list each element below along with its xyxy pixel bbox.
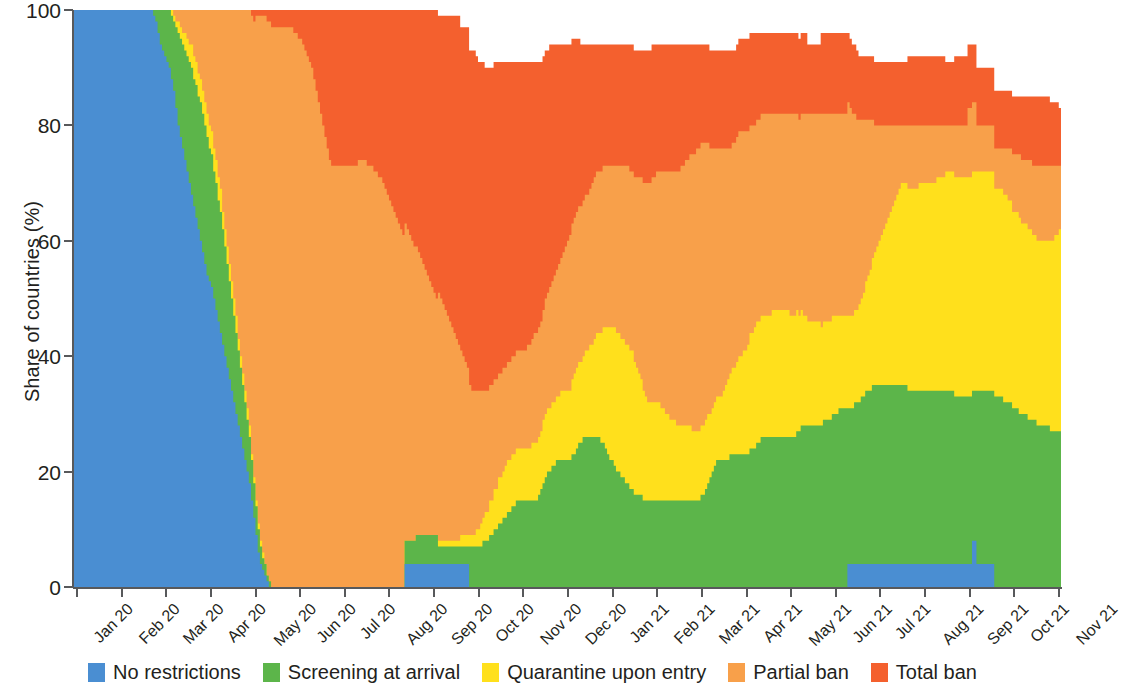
x-tick-mark (299, 588, 301, 597)
x-tick-label: Mar 20 (180, 600, 228, 648)
x-tick-mark (567, 588, 569, 597)
x-tick-label: Oct 20 (492, 600, 538, 646)
x-tick-label: Oct 21 (1027, 600, 1073, 646)
x-tick-mark (656, 588, 658, 597)
x-tick-label: Jun 20 (313, 600, 360, 647)
y-tick-label: 40 (38, 346, 61, 367)
legend-item-quarantine-upon-entry[interactable]: Quarantine upon entry (482, 662, 706, 682)
x-tick-label: Sep 20 (448, 600, 497, 649)
legend-label: Partial ban (753, 662, 849, 682)
y-tick-label: 80 (38, 115, 61, 136)
x-tick-mark (879, 588, 881, 597)
x-tick-mark (344, 588, 346, 597)
legend-swatch-icon (88, 663, 105, 682)
y-tick-label: 100 (26, 0, 61, 21)
x-tick-label: Nov 21 (1073, 600, 1121, 649)
x-tick-label: Jan 21 (626, 600, 673, 647)
x-tick-label: Apr 20 (224, 600, 270, 646)
legend-label: Quarantine upon entry (507, 662, 706, 682)
x-tick-label: Jun 21 (849, 600, 896, 647)
x-tick-label: Aug 21 (939, 600, 988, 649)
chart-legend: No restrictionsScreening at arrivalQuara… (0, 662, 1065, 682)
x-tick-mark (522, 588, 524, 597)
x-tick-mark (701, 588, 703, 597)
legend-label: Screening at arrival (288, 662, 460, 682)
x-tick-mark (121, 588, 123, 597)
x-tick-mark (433, 588, 435, 597)
x-tick-label: May 21 (806, 600, 856, 650)
x-tick-label: Jan 20 (90, 600, 137, 647)
plot-area (73, 10, 1061, 587)
x-tick-mark (924, 588, 926, 597)
x-tick-label: Aug 20 (403, 600, 452, 649)
legend-label: Total ban (896, 662, 977, 682)
x-tick-label: Jul 21 (892, 600, 935, 643)
plot-svg (73, 10, 1061, 587)
x-tick-label: Sep 21 (984, 600, 1033, 649)
area-series-group (73, 10, 1061, 587)
legend-label: No restrictions (113, 662, 241, 682)
x-tick-mark (478, 588, 480, 597)
legend-swatch-icon (263, 663, 280, 682)
x-tick-label: Mar 21 (715, 600, 763, 648)
x-tick-label: Dec 20 (582, 600, 631, 649)
x-tick-mark (835, 588, 837, 597)
y-tick-label: 0 (49, 577, 61, 598)
x-tick-mark (210, 588, 212, 597)
legend-swatch-icon (728, 663, 745, 682)
legend-swatch-icon (482, 663, 499, 682)
y-tick-label: 60 (38, 230, 61, 251)
x-tick-mark (790, 588, 792, 597)
x-tick-mark (1058, 588, 1060, 597)
legend-item-total-ban[interactable]: Total ban (871, 662, 977, 682)
y-axis-line (72, 10, 74, 588)
x-tick-mark (255, 588, 257, 597)
legend-item-screening-at-arrival[interactable]: Screening at arrival (263, 662, 460, 682)
legend-swatch-icon (871, 663, 888, 682)
x-tick-mark (165, 588, 167, 597)
legend-item-partial-ban[interactable]: Partial ban (728, 662, 849, 682)
x-tick-mark (1013, 588, 1015, 597)
x-tick-label: Jul 20 (356, 600, 399, 643)
y-tick-label: 20 (38, 461, 61, 482)
x-tick-label: Nov 20 (537, 600, 586, 649)
x-tick-mark (388, 588, 390, 597)
x-tick-label: Apr 21 (759, 600, 805, 646)
y-axis: 100806040200 (0, 0, 73, 597)
legend-item-no-restrictions[interactable]: No restrictions (88, 662, 241, 682)
x-tick-label: Feb 20 (135, 600, 183, 648)
x-tick-mark (76, 588, 78, 597)
x-tick-mark (746, 588, 748, 597)
x-tick-label: Feb 21 (671, 600, 719, 648)
x-tick-mark (969, 588, 971, 597)
x-tick-label: May 20 (270, 600, 320, 650)
x-tick-mark (612, 588, 614, 597)
